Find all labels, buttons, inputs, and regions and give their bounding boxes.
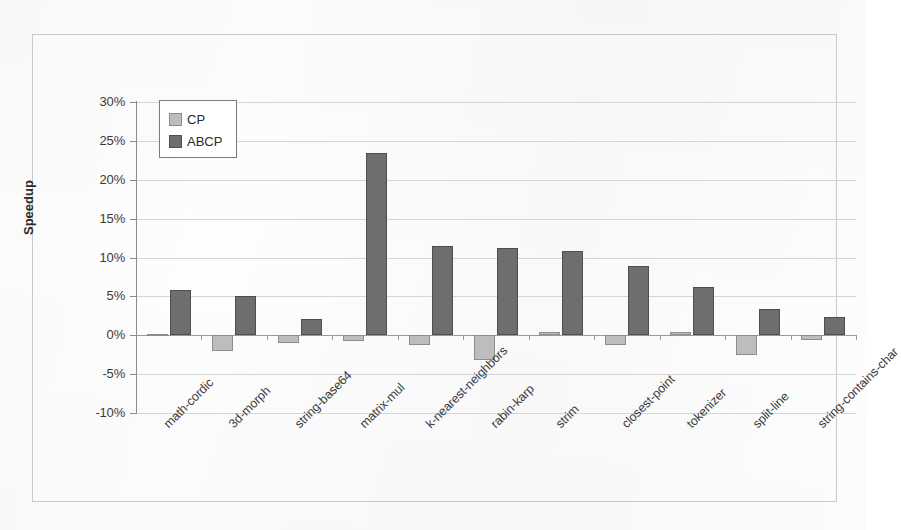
- gridline: [136, 219, 856, 220]
- x-axis-tick: [201, 335, 202, 340]
- gridline: [136, 102, 856, 103]
- x-axis-tick: [725, 335, 726, 340]
- bar-abcp-matrix-mul: [366, 153, 387, 336]
- y-axis-tick: [130, 413, 137, 414]
- gridline: [136, 258, 856, 259]
- y-axis-tick: [130, 180, 137, 181]
- bar-cp-matrix-mul: [343, 335, 364, 340]
- x-axis-tick: [856, 335, 857, 340]
- x-axis-tick: [594, 335, 595, 340]
- legend-item-cp: CP: [169, 108, 236, 130]
- bar-cp-strim: [539, 332, 560, 335]
- y-axis-tick: [130, 296, 137, 297]
- y-axis-tick-label: 30%: [81, 94, 125, 109]
- bar-abcp-closest-point: [628, 266, 649, 335]
- y-axis-tick: [130, 219, 137, 220]
- y-axis-tick: [130, 141, 137, 142]
- bar-cp-math-cordic: [147, 334, 168, 336]
- x-axis-tick: [267, 335, 268, 340]
- y-axis-tick: [130, 102, 137, 103]
- bar-cp-string-contains-char: [801, 335, 822, 340]
- gridline: [136, 141, 856, 142]
- chart-legend: CP ABCP: [159, 100, 237, 158]
- legend-label-abcp: ABCP: [187, 134, 222, 149]
- y-axis-tick-label: 5%: [81, 288, 125, 303]
- bar-cp-tokenizer: [670, 332, 691, 335]
- x-axis-tick: [791, 335, 792, 340]
- y-axis-tick-label: -10%: [81, 405, 125, 420]
- y-axis-tick-label: 10%: [81, 250, 125, 265]
- bar-abcp-split-line: [759, 309, 780, 335]
- bar-cp-string-base64: [278, 335, 299, 343]
- y-axis-tick: [130, 258, 137, 259]
- bar-cp-k-nearest-neighbors: [409, 335, 430, 344]
- y-axis-tick-label: -5%: [81, 366, 125, 381]
- legend-item-abcp: ABCP: [169, 130, 236, 152]
- bar-abcp-3d-morph: [235, 296, 256, 335]
- y-axis-tick-label: 15%: [81, 211, 125, 226]
- bar-cp-3d-morph: [212, 335, 233, 351]
- legend-swatch-cp: [169, 113, 182, 126]
- x-axis-tick: [398, 335, 399, 340]
- x-axis-tick: [332, 335, 333, 340]
- bar-abcp-string-contains-char: [824, 317, 845, 336]
- y-axis-tick-label: 20%: [81, 172, 125, 187]
- y-axis-title: Speedup: [21, 180, 36, 235]
- chart-outer-frame: Speedup 30%25%20%15%10%5%0%-5%-10% math-…: [32, 34, 837, 502]
- bar-abcp-tokenizer: [693, 287, 714, 335]
- bar-abcp-k-nearest-neighbors: [432, 246, 453, 335]
- y-axis-tick: [130, 335, 137, 336]
- bar-abcp-math-cordic: [170, 290, 191, 335]
- x-axis-tick: [463, 335, 464, 340]
- bar-abcp-rabin-karp: [497, 248, 518, 335]
- x-axis-tick: [660, 335, 661, 340]
- y-axis-tick: [130, 374, 137, 375]
- gridline: [136, 374, 856, 375]
- bar-abcp-string-base64: [301, 319, 322, 335]
- bar-abcp-strim: [562, 251, 583, 336]
- legend-swatch-abcp: [169, 135, 182, 148]
- gridline: [136, 180, 856, 181]
- legend-label-cp: CP: [187, 112, 205, 127]
- bar-cp-closest-point: [605, 335, 626, 345]
- bar-cp-split-line: [736, 335, 757, 354]
- x-axis-tick: [529, 335, 530, 340]
- y-axis-labels: 30%25%20%15%10%5%0%-5%-10%: [75, 35, 125, 501]
- y-axis-tick-label: 25%: [81, 133, 125, 148]
- y-axis-tick-label: 0%: [81, 327, 125, 342]
